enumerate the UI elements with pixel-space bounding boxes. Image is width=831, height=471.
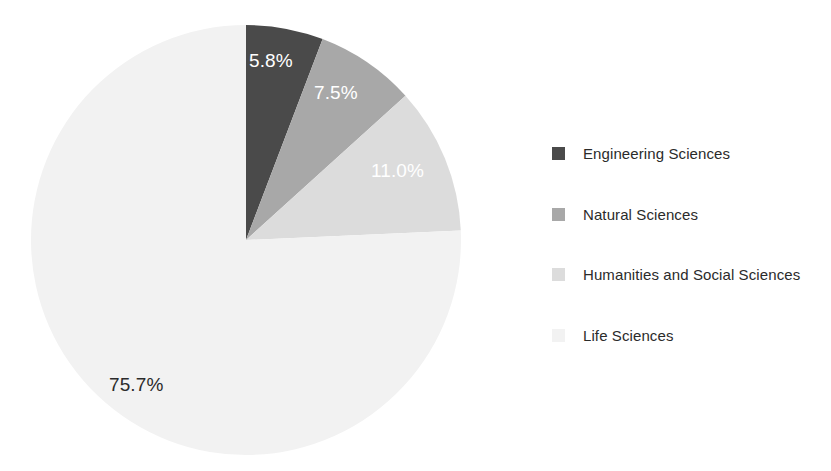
- chart-legend: Engineering Sciences Natural Sciences Hu…: [552, 146, 831, 389]
- legend-item-label: Humanities and Social Sciences: [583, 267, 800, 282]
- legend-swatch-icon: [552, 268, 565, 281]
- legend-item-natural-sciences: Natural Sciences: [552, 207, 831, 268]
- legend-item-label: Life Sciences: [583, 328, 674, 343]
- legend-item-label: Natural Sciences: [583, 207, 698, 222]
- legend-swatch-icon: [552, 329, 565, 342]
- pie-plot-area: 5.8% 7.5% 11.0% 75.7%: [0, 0, 520, 471]
- slice-label-humanities: 11.0%: [371, 161, 424, 180]
- legend-swatch-icon: [552, 147, 565, 160]
- pie-chart: 5.8% 7.5% 11.0% 75.7% Engineering Scienc…: [0, 0, 831, 471]
- slice-label-natural: 7.5%: [314, 83, 358, 102]
- slice-label-life-sciences: 75.7%: [109, 375, 163, 394]
- legend-swatch-icon: [552, 208, 565, 221]
- legend-item-engineering-sciences: Engineering Sciences: [552, 146, 831, 207]
- legend-item-label: Engineering Sciences: [583, 146, 730, 161]
- legend-item-humanities-and-social-sciences: Humanities and Social Sciences: [552, 267, 831, 328]
- legend-item-life-sciences: Life Sciences: [552, 328, 831, 389]
- slice-label-engineering: 5.8%: [249, 51, 293, 70]
- pie-slice-group: [31, 25, 461, 455]
